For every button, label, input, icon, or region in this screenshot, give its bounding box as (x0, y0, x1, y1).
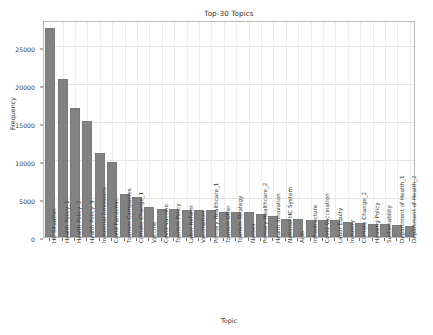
x-tick-mark (99, 238, 100, 241)
x-tick-mark (124, 238, 125, 241)
y-tick-label: 20000 (15, 83, 35, 90)
x-tick-label: Health Policy_2 (76, 200, 82, 243)
y-tick-label: 15000 (15, 121, 35, 128)
y-axis-ticks: 0500010000150002000025000 (0, 21, 43, 239)
x-tick-mark (86, 238, 87, 241)
x-tick-mark (334, 238, 335, 241)
x-tick-mark (148, 238, 149, 241)
x-tick-mark (322, 238, 323, 241)
x-tick-mark (198, 238, 199, 241)
x-tick-label: Vaccine (151, 221, 157, 243)
x-tick-label: National HC System (287, 187, 293, 243)
x-tick-label: Infrastructure (312, 205, 318, 243)
x-tick-mark (310, 238, 311, 241)
chart-figure: Top-30 Topics Frequency 0500010000150002… (0, 0, 433, 335)
x-tick-label: Covid Vaccination (324, 193, 330, 243)
x-tick-label: Department of Health_1 (399, 175, 405, 243)
x-tick-label: Aids (299, 231, 305, 243)
x-tick-mark (409, 238, 410, 241)
x-tick-mark (285, 238, 286, 241)
chart-title: Top-30 Topics (43, 9, 415, 18)
y-tick-label: 0 (31, 236, 35, 243)
x-tick-label: Tourism Companies (126, 188, 132, 243)
x-tick-label: Health Policy_1 (64, 200, 70, 243)
x-tick-label: Department of Health_2 (411, 175, 417, 243)
x-tick-label: Climate Change_1 (138, 192, 144, 243)
x-tick-mark (186, 238, 187, 241)
x-tick-mark (74, 238, 75, 241)
y-tick-label: 5000 (19, 197, 35, 204)
x-tick-mark (272, 238, 273, 241)
bar[interactable] (45, 28, 55, 237)
x-tick-label: Tourism Offer (225, 206, 231, 243)
y-tick-label: 25000 (15, 45, 35, 52)
x-tick-label: Primary Healthcare_2 (262, 183, 268, 243)
x-tick-mark (372, 238, 373, 241)
x-tick-mark (384, 238, 385, 241)
x-tick-mark (260, 238, 261, 241)
x-tick-label: Industrial Emissions (101, 187, 107, 243)
x-tick-label: Vaccination (200, 211, 206, 243)
x-axis-ticks: HC SituationHealth Policy_1Health Policy… (43, 238, 415, 328)
x-tick-label: Labor Equity (337, 208, 343, 243)
x-tick-mark (161, 238, 162, 241)
x-tick-label: Housing Policy (374, 202, 380, 243)
x-tick-label: Health Innovation (275, 193, 281, 243)
x-tick-label: Labor Reform (188, 205, 194, 243)
x-tick-mark (62, 238, 63, 241)
x-tick-mark (136, 238, 137, 241)
x-tick-label: Health Policy_3 (89, 200, 95, 243)
x-tick-mark (347, 238, 348, 241)
x-tick-mark (248, 238, 249, 241)
x-tick-mark (210, 238, 211, 241)
x-tick-label: Covid Pandemic (113, 198, 119, 243)
x-tick-mark (396, 238, 397, 241)
x-tick-label: Industry (349, 220, 355, 243)
x-tick-label: Sustainability (386, 205, 392, 243)
x-tick-label: Covid Vaccine (163, 204, 169, 243)
x-tick-mark (223, 238, 224, 241)
y-tick-label: 10000 (15, 159, 35, 166)
x-axis-label: Topic (43, 317, 415, 325)
x-tick-label: Primary Healthcare_1 (213, 183, 219, 243)
x-tick-label: HC Situation (51, 208, 57, 243)
x-tick-label: Nurses (250, 224, 256, 243)
x-tick-label: Tourism Policy (175, 203, 181, 243)
x-tick-label: Tourism Strategy (237, 196, 243, 243)
x-tick-label: Climate Change_2 (361, 192, 367, 243)
